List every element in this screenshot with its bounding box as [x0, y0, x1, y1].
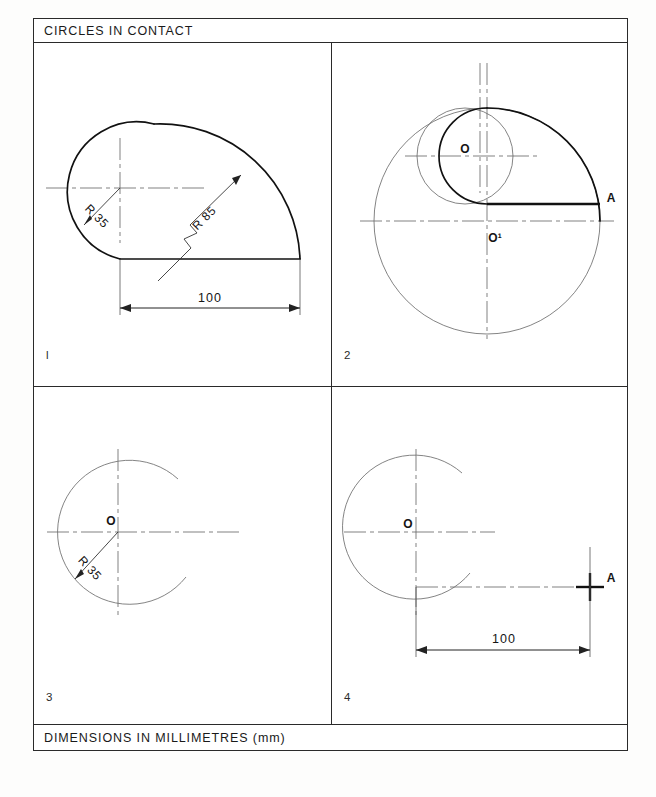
drawing-frame: CIRCLES IN CONTACT DIMENSIONS IN MILLIME… [33, 18, 628, 751]
dim-arrow-left [416, 646, 427, 654]
dim-label-100: 100 [492, 632, 516, 646]
panel-number-4: 4 [344, 691, 350, 703]
panel-2-drawing: O O¹ A [332, 43, 628, 386]
r85-label: R 85 [189, 203, 219, 233]
label-center-o: O [460, 142, 469, 156]
panel-4-drawing: A O 100 [332, 387, 628, 727]
r35-label: R 35 [75, 553, 104, 583]
large-radius-arc [154, 124, 300, 259]
dim-arrow-right [579, 646, 590, 654]
dim-arrow-left [120, 304, 131, 312]
label-point-a: A [607, 571, 616, 585]
panel-number-2: 2 [344, 349, 350, 361]
page-title: CIRCLES IN CONTACT [34, 24, 193, 38]
label-center-o1: O¹ [488, 231, 501, 245]
panel-number-1: l [46, 349, 49, 361]
footer-bar: DIMENSIONS IN MILLIMETRES (mm) [34, 724, 627, 750]
dim-label-100: 100 [198, 291, 222, 305]
drawing-sheet: CIRCLES IN CONTACT DIMENSIONS IN MILLIME… [0, 0, 656, 797]
r35-label: R 35 [82, 201, 112, 231]
panel-number-3: 3 [46, 691, 52, 703]
dim-arrow-right [289, 304, 300, 312]
small-radius-arc [67, 122, 154, 259]
panel-3-drawing: R 35 O [34, 387, 331, 727]
title-bar: CIRCLES IN CONTACT [34, 19, 627, 43]
label-center-o: O [403, 517, 412, 531]
r85-arrowhead [232, 175, 241, 185]
label-point-a: A [607, 191, 616, 205]
label-center-o: O [106, 514, 115, 528]
units-note: DIMENSIONS IN MILLIMETRES (mm) [34, 731, 286, 745]
panel-1-drawing: R 35 R 85 100 [34, 43, 331, 386]
